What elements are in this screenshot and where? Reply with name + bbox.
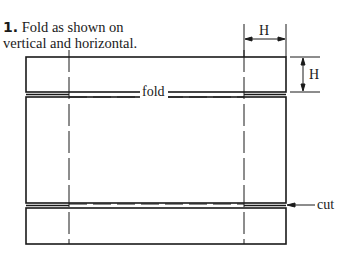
arrow-down-icon: [301, 84, 305, 91]
fold-label: fold: [142, 84, 165, 99]
fold-diagram: fold H H cut: [0, 0, 349, 256]
bottom-flap: [26, 208, 286, 244]
main-panel: [26, 97, 286, 203]
height-dimension-label: H: [309, 67, 319, 82]
width-dimension-label: H: [259, 23, 269, 38]
arrow-right-icon: [278, 37, 285, 41]
arrow-up-icon: [301, 58, 305, 65]
cut-label: cut: [317, 197, 334, 212]
arrow-left-icon: [245, 37, 252, 41]
arrow-left-icon: [287, 203, 295, 207]
